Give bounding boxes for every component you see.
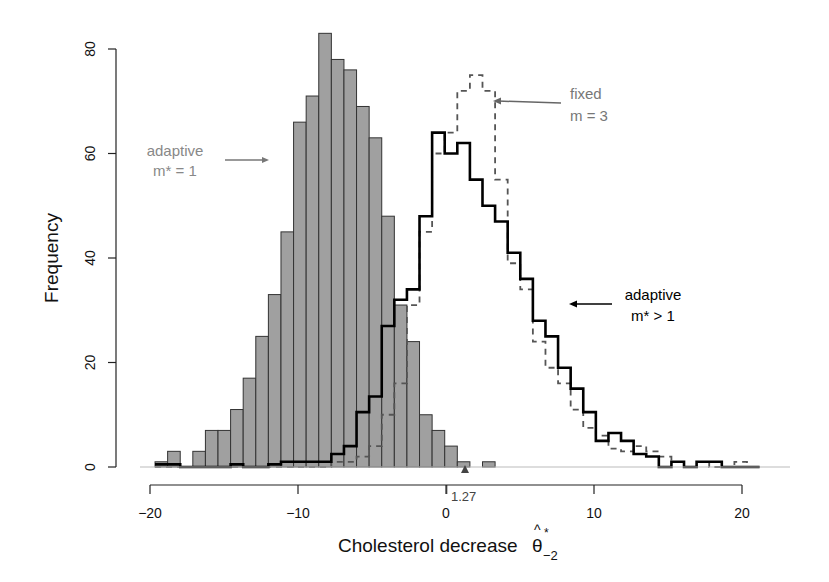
svg-text:−2: −2 (543, 548, 558, 563)
x-tick-label: −20 (138, 505, 162, 521)
histogram-bar (243, 378, 256, 467)
histogram-bar (407, 342, 420, 467)
histogram-bar (268, 295, 281, 467)
histogram-bar (369, 138, 382, 467)
annotation-label-line2: m* > 1 (631, 307, 675, 324)
y-axis-title: Frequency (41, 213, 62, 303)
annotation-label-line2: m* = 1 (153, 162, 197, 179)
x-tick-label: −10 (286, 505, 310, 521)
adaptive-m1-bars (155, 33, 495, 467)
svg-text:^: ^ (534, 522, 541, 538)
histogram-bar (482, 462, 495, 467)
histogram-bar (382, 216, 395, 467)
annotation-adaptive-mgt1: adaptive m* > 1 (569, 286, 681, 324)
x-axis: −20−1001020 (138, 485, 750, 521)
y-axis: 020406080 (82, 41, 116, 471)
histogram-bar (205, 430, 218, 467)
histogram-bar (394, 305, 407, 467)
arrowhead-icon (569, 301, 577, 308)
arrowhead-icon (262, 157, 269, 163)
annotation-label-line1: adaptive (625, 286, 682, 303)
histogram-bar (420, 415, 433, 467)
y-tick-label: 80 (82, 41, 98, 57)
histogram-bar (231, 410, 244, 467)
y-tick-label: 0 (82, 463, 98, 471)
svg-text:Cholesterol decrease: Cholesterol decrease (338, 535, 518, 556)
x-tick-label: 10 (586, 505, 602, 521)
svg-text:*: * (544, 526, 549, 540)
histogram-bar (306, 96, 319, 467)
histogram-bar (344, 70, 357, 467)
histogram-bar (218, 430, 231, 467)
histogram-bar (319, 33, 332, 467)
histogram-bar (193, 451, 206, 467)
histogram-chart: 020406080 −20−1001020 adaptive m* = 1 fi… (0, 0, 829, 582)
histogram-bar (445, 446, 458, 467)
x-axis-title: Cholesterol decrease θ ^ * −2 (338, 522, 558, 563)
histogram-bar (432, 430, 445, 467)
y-tick-label: 60 (82, 146, 98, 162)
annotation-label-line1: adaptive (147, 142, 204, 159)
annotation-fixed-m3: fixed m = 3 (493, 85, 608, 124)
svg-text:θ: θ (532, 535, 543, 556)
x-tick-label: 0 (442, 505, 450, 521)
annotation-label-line2: m = 3 (570, 107, 608, 124)
annotation-label-line1: fixed (570, 85, 602, 102)
histogram-bar (256, 336, 269, 467)
histogram-bar (294, 122, 307, 467)
histogram-bar (457, 462, 470, 467)
histogram-bar (331, 59, 344, 467)
marker-label: 1.27 (451, 489, 476, 504)
y-tick-label: 20 (82, 355, 98, 371)
histogram-bar (281, 232, 294, 467)
annotation-adaptive-m1: adaptive m* = 1 (147, 142, 269, 179)
arrow-icon (498, 101, 561, 103)
x-tick-label: 20 (734, 505, 750, 521)
y-tick-label: 40 (82, 250, 98, 266)
